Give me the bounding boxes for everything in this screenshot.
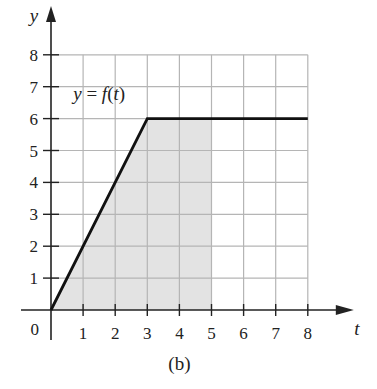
x-tick-label: 3 [143,324,152,343]
x-axis-arrow-icon [336,305,354,315]
figure-caption: (b) [168,353,190,375]
origin-label: 0 [31,320,40,339]
x-tick-label: 4 [175,324,184,343]
y-tick-label: 3 [30,205,39,224]
y-tick-label: 6 [30,110,39,129]
x-tick-label: 5 [207,324,216,343]
y-tick-label: 8 [30,46,39,65]
y-tick-label: 7 [30,78,39,97]
x-tick-label: 7 [271,324,280,343]
y-tick-label: 4 [30,173,39,192]
chart: 12345678123456780yty = f(t)(b) [0,0,377,389]
x-tick-label: 6 [239,324,248,343]
y-tick-label: 1 [30,269,39,288]
x-tick-label: 2 [111,324,120,343]
x-tick-label: 8 [304,324,313,343]
x-axis-label: t [354,318,360,339]
x-tick-label: 1 [79,324,88,343]
y-axis-label: y [28,5,39,26]
y-tick-label: 5 [30,142,39,161]
y-tick-label: 2 [30,237,39,256]
function-label: y = f(t) [71,83,125,105]
y-axis-arrow-icon [46,6,56,22]
